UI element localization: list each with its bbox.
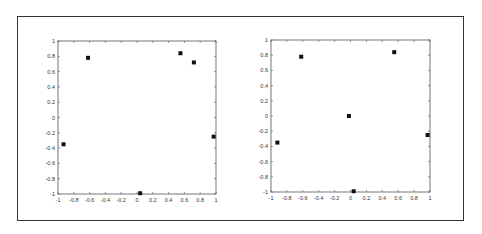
data-point-marker: [392, 50, 396, 54]
data-point-marker: [192, 60, 196, 64]
x-tick-label: -0.4: [101, 197, 110, 203]
data-point-marker: [275, 141, 279, 145]
x-tick-label: -0.6: [85, 197, 94, 203]
data-point-marker: [138, 191, 142, 195]
x-tick-label: 1: [214, 197, 217, 203]
y-tick-label: 0.6: [260, 67, 268, 73]
data-point-marker: [62, 142, 66, 146]
y-tick-label: 1: [52, 38, 55, 44]
x-tick-label: 0: [135, 197, 138, 203]
y-tick-label: -0.8: [259, 174, 268, 180]
y-tick-label: -0.2: [46, 130, 55, 136]
x-tick-label: 1: [428, 195, 431, 201]
x-tick-label: -1: [56, 197, 61, 203]
y-tick-label: 0.4: [47, 84, 55, 90]
y-tick-label: 0.8: [47, 53, 55, 59]
y-tick-label: 0: [52, 115, 55, 121]
scatter-plot-left: -1-0.8-0.6-0.4-0.200.20.40.60.8110.80.60…: [46, 38, 218, 203]
x-tick-label: -0.8: [69, 197, 78, 203]
y-tick-label: 0: [265, 113, 268, 119]
x-tick-label: 0.4: [378, 195, 386, 201]
y-tick-label: -0.8: [46, 176, 55, 182]
x-tick-label: 0.6: [181, 197, 189, 203]
data-point-marker: [299, 55, 303, 59]
x-tick-label: -1: [269, 195, 274, 201]
x-tick-label: 0.6: [394, 195, 402, 201]
scatter-plot-right: -1-0.8-0.6-0.4-0.200.20.40.60.8110.80.60…: [259, 37, 432, 201]
y-tick-label: 0.8: [260, 52, 268, 58]
data-point-marker: [352, 189, 356, 193]
y-tick-label: -1: [50, 191, 55, 197]
y-tick-label: -0.4: [46, 145, 55, 151]
x-tick-label: -0.6: [298, 195, 307, 201]
x-tick-label: 0: [349, 195, 352, 201]
data-point-marker: [426, 133, 430, 137]
x-tick-label: -0.8: [282, 195, 291, 201]
y-tick-label: -1: [263, 189, 268, 195]
data-point-marker: [347, 114, 351, 118]
y-tick-label: 0.4: [260, 83, 268, 89]
y-tick-label: 0.6: [47, 69, 55, 75]
x-tick-label: 0.2: [363, 195, 371, 201]
data-point-marker: [212, 135, 216, 139]
x-tick-label: -0.4: [314, 195, 323, 201]
y-tick-label: 0.2: [47, 99, 55, 105]
data-point-marker: [86, 56, 90, 60]
y-tick-label: -0.2: [259, 128, 268, 134]
x-tick-label: 0.4: [165, 197, 173, 203]
x-tick-label: 0.8: [410, 195, 418, 201]
y-tick-label: -0.6: [259, 159, 268, 165]
x-tick-label: 0.2: [149, 197, 157, 203]
figure-canvas: -1-0.8-0.6-0.4-0.200.20.40.60.8110.80.60…: [0, 0, 482, 234]
y-tick-label: -0.4: [259, 143, 268, 149]
data-point-marker: [178, 51, 182, 55]
x-tick-label: -0.2: [330, 195, 339, 201]
y-tick-label: -0.6: [46, 160, 55, 166]
x-tick-label: 0.8: [196, 197, 204, 203]
x-tick-label: -0.2: [116, 197, 125, 203]
y-tick-label: 0.2: [260, 98, 268, 104]
y-tick-label: 1: [265, 37, 268, 43]
